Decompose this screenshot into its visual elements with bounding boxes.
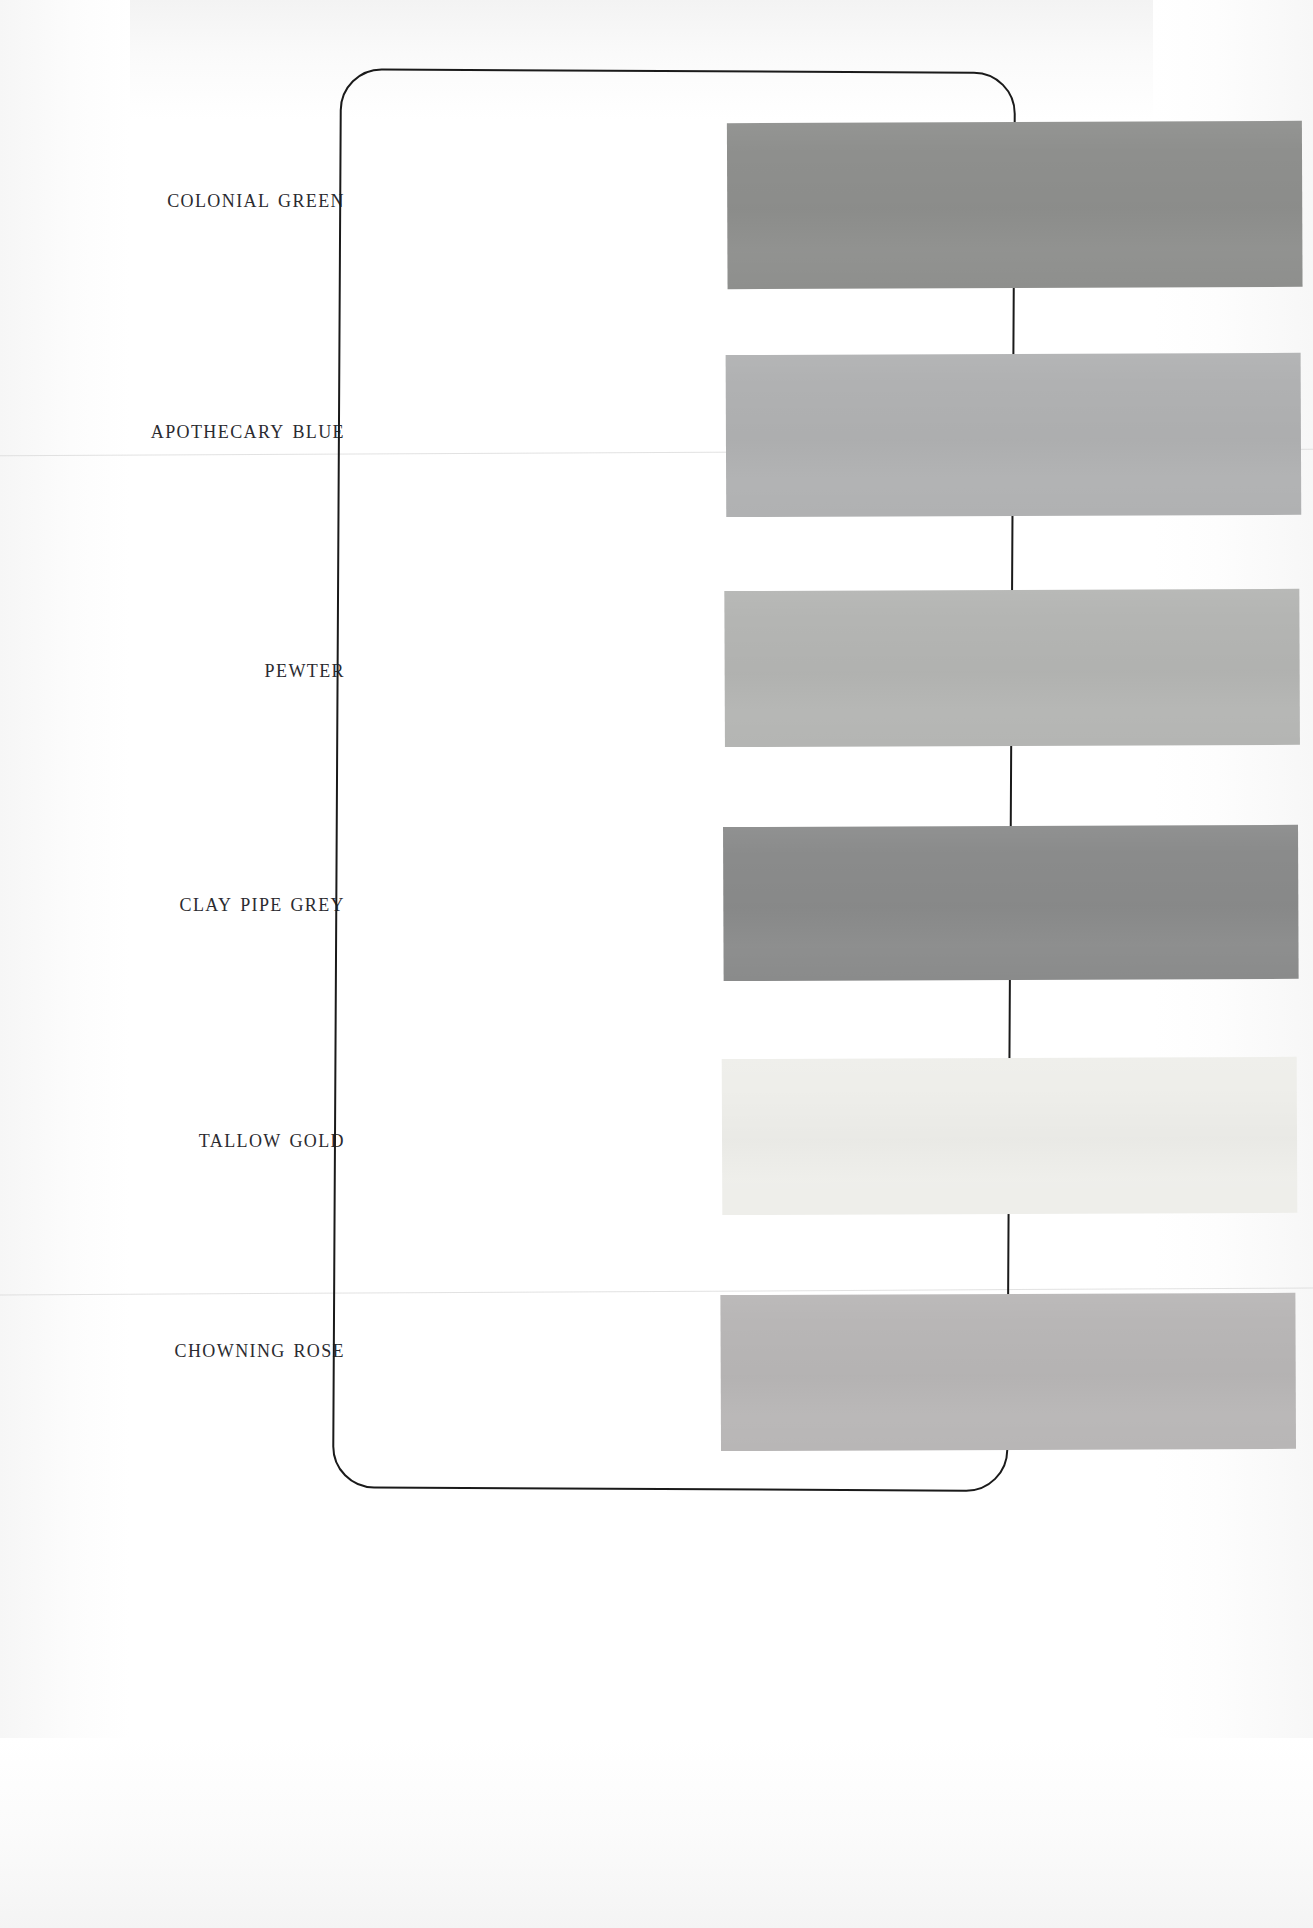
swatch-fill-pewter	[724, 589, 1300, 747]
swatch-chowning-rose	[720, 1292, 1296, 1451]
color-card-border	[332, 68, 1016, 1492]
swatch-apothecary-blue	[725, 352, 1301, 517]
swatch-pewter	[724, 588, 1300, 747]
scanned-page: Colonial Green Apothecary Blue Pewter Cl…	[0, 0, 1313, 1928]
swatch-fill-colonial-green	[727, 121, 1303, 289]
swatch-colonial-green	[727, 120, 1303, 289]
card-rotation-wrapper	[0, 0, 1313, 1928]
swatch-fill-apothecary-blue	[726, 353, 1302, 517]
swatch-fill-chowning-rose	[720, 1293, 1296, 1451]
swatch-fill-clay-pipe-grey	[723, 825, 1299, 981]
swatch-clay-pipe-grey	[723, 824, 1299, 981]
swatch-fill-tallow-gold	[722, 1057, 1298, 1215]
swatch-tallow-gold	[722, 1056, 1298, 1215]
